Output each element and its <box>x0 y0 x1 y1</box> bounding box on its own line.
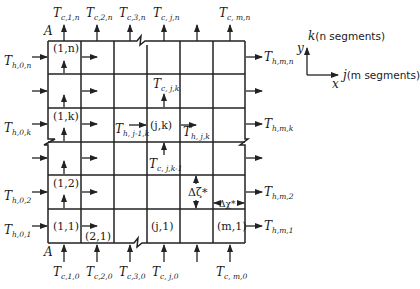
corner-label-top: A <box>43 24 53 38</box>
cell-m-1: (m,1) <box>217 220 247 233</box>
svg-text:Th,0,k: Th,0,k <box>4 121 31 137</box>
svg-text:Tc,2,0: Tc,2,0 <box>86 265 113 281</box>
j-axis-label: j(m segments) <box>340 68 420 82</box>
corner-label-bottom: A <box>43 245 53 259</box>
cell-j-1: (j,1) <box>151 220 174 233</box>
bottom-labels: Tc,1,0 Tc,2,0 Tc,3,0 Tc, j,0 Tc, m,0 <box>53 265 247 281</box>
cell-1-k: (1,k) <box>53 110 79 123</box>
cell-2-1: (2,1) <box>85 230 111 243</box>
svg-text:Th,0,2: Th,0,2 <box>4 189 31 205</box>
bottom-arrows <box>64 245 230 262</box>
left-arrows <box>32 57 47 226</box>
x-axis-label: x <box>332 77 339 91</box>
svg-text:Tc, j,n: Tc, j,n <box>153 6 180 22</box>
left-labels: Th,0,n Th,0,k Th,0,2 Th,0,1 <box>4 54 31 239</box>
delta-chi-label: Δχ* <box>219 199 236 209</box>
crossflow-grid-diagram: A A Tc,1,n Tc,2,n Tc,3,n Tc, j,n Tc, m,n… <box>0 0 420 289</box>
svg-text:Tc,3,0: Tc,3,0 <box>119 265 146 281</box>
delta-zeta-label: Δζ* <box>188 186 208 199</box>
svg-text:Tc, j,0: Tc, j,0 <box>152 265 179 281</box>
right-arrows <box>246 57 262 226</box>
svg-text:Th,m,n: Th,m,n <box>264 50 294 66</box>
grid-lines <box>48 41 245 243</box>
svg-text:Tc,1,0: Tc,1,0 <box>53 265 80 281</box>
cell-1-n: (1,n) <box>53 42 79 55</box>
right-labels: Th,m,n Th,m,k Th,m,2 Th,m,1 <box>264 50 294 235</box>
svg-text:Tc, m,n: Tc, m,n <box>219 6 250 22</box>
svg-text:Th,m,2: Th,m,2 <box>264 185 294 201</box>
svg-text:Tc,1,n: Tc,1,n <box>53 6 80 22</box>
cell-1-1: (1,1) <box>53 220 79 233</box>
top-arrows <box>64 25 230 41</box>
svg-text:Th,0,n: Th,0,n <box>4 54 31 70</box>
axes-legend: y x k(n segments) j(m segments) <box>296 29 420 91</box>
svg-text:Tc,3,n: Tc,3,n <box>119 6 146 22</box>
svg-text:Tc, m,0: Tc, m,0 <box>216 265 247 281</box>
delta-chi-indicator: Δχ* <box>214 199 244 209</box>
svg-text:Th,0,1: Th,0,1 <box>4 223 31 239</box>
svg-text:Th,m,k: Th,m,k <box>264 117 294 133</box>
svg-text:Th,m,1: Th,m,1 <box>264 219 294 235</box>
cell-j-k: (j,k) <box>150 119 172 132</box>
top-labels: Tc,1,n Tc,2,n Tc,3,n Tc, j,n Tc, m,n <box>53 6 250 22</box>
svg-text:Tc, j,k-1: Tc, j,k-1 <box>149 157 182 173</box>
k-axis-label: k(n segments) <box>308 29 385 43</box>
svg-text:Tc,2,n: Tc,2,n <box>86 6 113 22</box>
cell-1-2: (1,2) <box>53 177 79 190</box>
svg-text:Th, j,k: Th, j,k <box>183 125 210 141</box>
y-axis-label: y <box>296 41 304 55</box>
delta-zeta-indicator: Δζ* <box>188 176 208 208</box>
svg-text:Tc, j,k: Tc, j,k <box>153 77 180 93</box>
